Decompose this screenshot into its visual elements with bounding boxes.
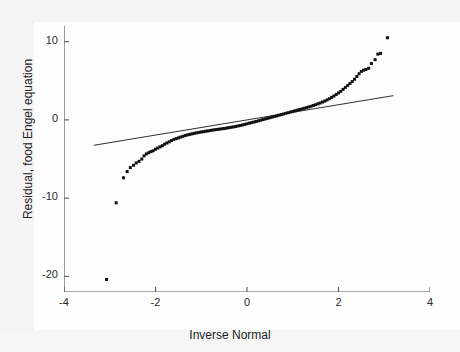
data-point [374, 58, 377, 61]
data-point [140, 158, 143, 161]
x-tick-label: 2 [325, 296, 353, 308]
data-point [367, 67, 370, 70]
data-point [370, 62, 373, 65]
x-tick-label: -2 [142, 296, 170, 308]
data-point [353, 78, 356, 81]
data-point [129, 166, 132, 169]
x-axis-label: Inverse Normal [0, 328, 460, 342]
figure-container: -4-2024100-10-20 Residual, food Engel eq… [0, 0, 460, 352]
scatter-plot-svg [64, 26, 430, 292]
x-tick-label: 0 [233, 296, 261, 308]
y-axis-label: Residual, food Engel equation [21, 19, 35, 259]
x-tick-label: -4 [50, 296, 78, 308]
data-point [105, 278, 108, 281]
data-point [132, 164, 135, 167]
data-point [126, 170, 129, 173]
data-point [115, 201, 118, 204]
data-point [364, 68, 367, 71]
reference-line [94, 96, 394, 146]
x-tick-label: 4 [416, 296, 444, 308]
data-point [122, 176, 125, 179]
data-point [379, 52, 382, 55]
data-point [376, 53, 379, 56]
plot-area [64, 26, 430, 292]
y-tick-label: -20 [28, 268, 58, 280]
scan-tint-top [0, 0, 460, 22]
data-point [135, 161, 138, 164]
data-point [386, 36, 389, 39]
data-point [355, 75, 358, 78]
data-point [138, 160, 141, 163]
